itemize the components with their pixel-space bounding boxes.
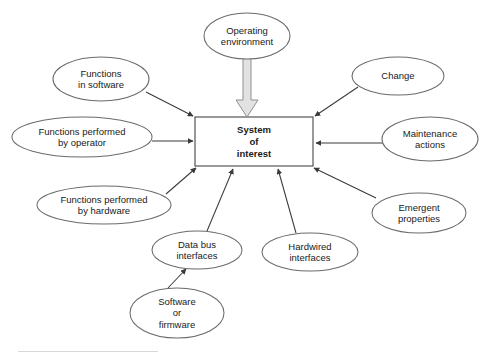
node-maintenance-actions [382, 117, 478, 161]
node-hardwired-interfaces [262, 233, 358, 271]
arrow-functions-performed-by-hardware [166, 168, 196, 194]
block-arrow-operating-environment [236, 58, 258, 117]
node-software-or-firmware [130, 288, 224, 338]
context-diagram: System of interest Operating environment… [0, 0, 491, 355]
arrow-hardwired-interfaces [278, 169, 296, 233]
page-edge-artifact [18, 351, 158, 352]
arrow-emergent-properties [314, 168, 376, 198]
arrow-functions-in-software [146, 92, 193, 116]
node-functions-performed-by-hardware [37, 186, 171, 224]
arrow-software-or-firmware [168, 269, 186, 288]
arrow-change [315, 87, 358, 116]
node-emergent-properties [372, 193, 466, 233]
node-operating-environment [204, 13, 290, 59]
node-functions-performed-by-operator [12, 117, 152, 157]
diagram-canvas [0, 0, 491, 355]
node-functions-in-software [53, 57, 149, 101]
system-of-interest-box [195, 117, 313, 166]
node-data-bus-interfaces [152, 231, 242, 269]
node-change [352, 57, 444, 95]
arrow-data-bus-interfaces [207, 169, 233, 231]
